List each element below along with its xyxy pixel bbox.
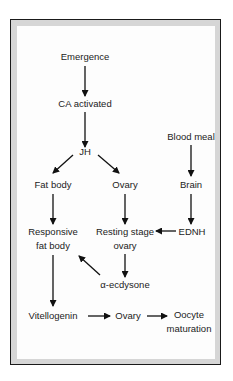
node-ednh: EDNH bbox=[179, 225, 206, 239]
node-vitellogenin: Vitellogenin bbox=[29, 309, 78, 323]
node-jh: JH bbox=[79, 145, 91, 159]
arrow-jh-to-ovary bbox=[98, 155, 119, 173]
arrow-ecdysone-to-responsive bbox=[79, 256, 100, 275]
node-ovary-top: Ovary bbox=[112, 178, 137, 192]
node-ovary-bottom: Ovary bbox=[115, 309, 140, 323]
arrow-jh-to-fatbody bbox=[53, 155, 73, 173]
node-resting-line1: Resting stage bbox=[96, 225, 154, 239]
node-oocyte-maturation: Oocyte maturation bbox=[167, 308, 212, 336]
node-responsive-fat-body: Responsive fat body bbox=[28, 225, 78, 253]
node-oocyte-line1: Oocyte bbox=[167, 308, 212, 322]
node-emergence: Emergence bbox=[61, 50, 110, 64]
node-ca-activated: CA activated bbox=[58, 97, 111, 111]
node-alpha-ecdysone: α-ecdysone bbox=[100, 278, 149, 292]
node-resting-stage-ovary: Resting stage ovary bbox=[96, 225, 154, 253]
node-brain: Brain bbox=[180, 178, 202, 192]
node-fat-body: Fat body bbox=[35, 178, 72, 192]
node-blood-meal: Blood meal bbox=[167, 130, 215, 144]
node-resting-line2: ovary bbox=[96, 239, 154, 253]
node-oocyte-line2: maturation bbox=[167, 322, 212, 336]
node-responsive-line2: fat body bbox=[28, 239, 78, 253]
node-responsive-line1: Responsive bbox=[28, 225, 78, 239]
